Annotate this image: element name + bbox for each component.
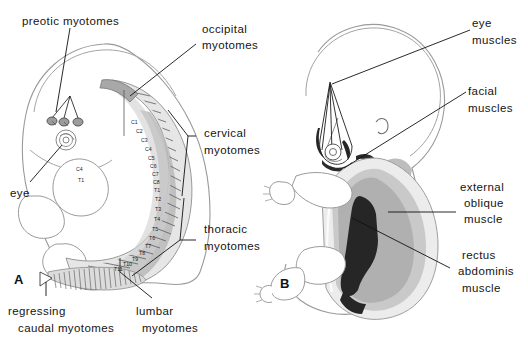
segment-label-t3: T3 [155,206,161,212]
label-lumbar-myotomes-line2: myotomes [142,321,198,335]
label-regressing-caudal-line2: caudal myotomes [18,321,114,335]
segment-label-c5: C5 [148,155,155,161]
label-regressing-caudal-line1: regressing [8,304,66,318]
segment-label-c4: C4 [145,146,152,152]
label-lumbar-myotomes-line1: lumbar [136,304,174,318]
segment-label-t7: T7 [145,243,151,249]
label-rectus-abdominis-line2: abdominis [458,264,514,278]
label-facial-muscles-line1: facial [468,84,497,98]
label-rectus-abdominis-line1: rectus [462,248,496,262]
segment-label-t9: T9 [132,256,138,262]
segment-label-t10: T10 [123,261,132,267]
label-rectus-abdominis-line3: muscle [462,281,501,295]
preotic-myotomes [47,28,83,126]
figure-artwork [0,0,528,344]
label-external-oblique-line1: external [460,180,504,194]
fetal-arm [263,173,352,208]
segment-label-t2: T2 [155,196,161,202]
label-eye-muscles-line1: eye [472,16,492,30]
label-cervical-myotomes-line2: myotomes [204,143,260,157]
label-external-oblique-line2: oblique [464,196,504,210]
segment-label-t1: T1 [154,187,160,193]
segment-label-t1-medial: T1 [78,177,84,183]
segment-label-t6: T6 [149,235,155,241]
label-eye-a: eye [10,186,30,200]
segment-label-c8: C8 [153,179,160,185]
fetal-hand [270,182,295,205]
label-thoracic-myotomes-line1: thoracic [204,222,247,236]
label-facial-muscles-line2: muscles [468,101,513,115]
label-external-oblique-line3: muscle [464,212,503,226]
eye-muscles-b [316,82,352,171]
segment-label-t4: T4 [154,216,160,222]
segment-label-t11: T11 [114,266,123,272]
label-occipital-myotomes-line2: myotomes [202,38,258,52]
ear-icon [376,119,388,134]
label-thoracic-myotomes-line2: myotomes [204,239,260,253]
cranium-outline [306,28,441,156]
segment-label-t8: T8 [139,250,145,256]
segment-label-c4-medial: C4 [76,166,83,172]
label-preotic-myotomes: preotic myotomes [22,14,119,28]
label-cervical-myotomes-line1: cervical [204,126,246,140]
segment-label-c2: C2 [136,128,143,134]
facial-muscles-leader-line [344,92,466,168]
eye-muscles-leader-line [332,30,470,84]
eye-structure-a [56,130,76,150]
segment-label-c6: C6 [150,163,157,169]
panel-letter-a: A [14,272,23,287]
segment-label-c1: C1 [131,119,138,125]
panel-a-artwork [18,28,210,298]
segment-label-c3: C3 [141,137,148,143]
label-occipital-myotomes-line1: occipital [202,22,247,36]
segment-label-c7: C7 [152,171,159,177]
occipital-myotome-cap [100,80,138,102]
occipital-leader-line [130,44,196,96]
regressing-caudal-myotomes [40,267,146,290]
label-eye-muscles-line2: muscles [472,33,517,47]
segment-label-t5: T5 [152,226,158,232]
panel-letter-b: B [280,276,289,291]
embryo-myotome-figure: preotic myotomes occipital myotomes cerv… [0,0,528,344]
